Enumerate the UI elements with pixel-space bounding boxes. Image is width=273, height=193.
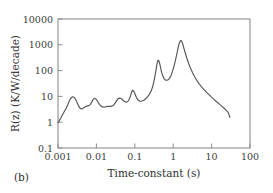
x-tick-label-4: 10 (206, 151, 218, 162)
x-axis-title: Time-constant (s) (108, 167, 201, 179)
x-tick-label-5: 100 (241, 151, 259, 162)
x-tick-label-1: 0.01 (86, 151, 107, 162)
x-tick-label-3: 1 (170, 151, 176, 162)
y-tick-label-4: 1000 (29, 39, 53, 50)
chart-canvas: 0.001 0.01 0.1 1 10 100 0.1 1 10 100 100… (0, 0, 273, 193)
y-tick-label-0: 0.1 (38, 143, 53, 154)
y-axis-ticks (58, 19, 63, 148)
figure-panel-b: 0.001 0.01 0.1 1 10 100 0.1 1 10 100 100… (0, 0, 273, 193)
y-tick-label-3: 100 (35, 65, 53, 76)
y-axis-title: R(z) (K/W/decade) (9, 35, 21, 132)
y-tick-label-1: 1 (47, 117, 53, 128)
y-tick-label-2: 10 (41, 91, 53, 102)
x-tick-label-2: 0.1 (127, 151, 142, 162)
x-axis-ticks (58, 144, 250, 149)
y-tick-label-5: 10000 (23, 14, 53, 25)
data-curve (58, 40, 230, 122)
panel-label: (b) (14, 171, 29, 183)
